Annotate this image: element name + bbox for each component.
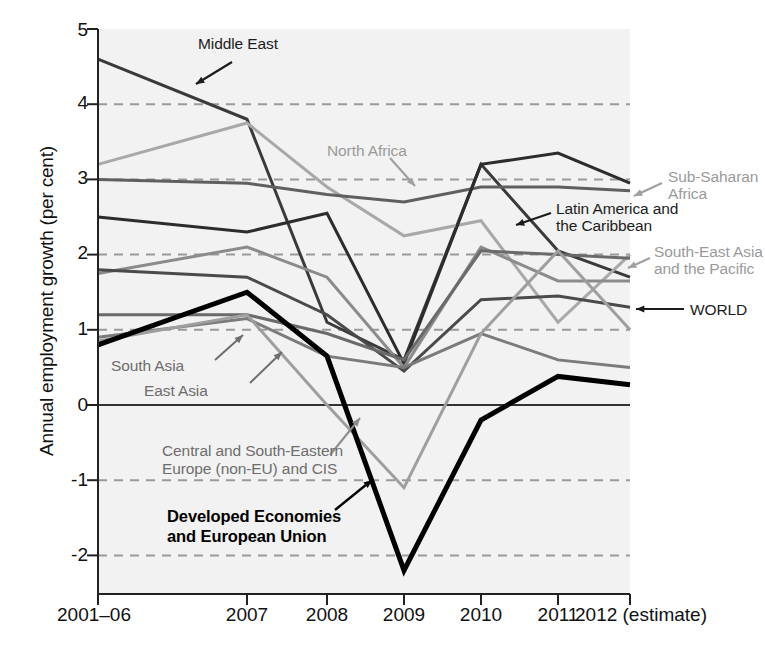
y-tick-4: 4 (48, 92, 88, 114)
y-tick-neg2: -2 (48, 544, 88, 566)
leader-arrowhead-5 (636, 305, 644, 312)
y-tick-5: 5 (48, 19, 88, 41)
y-tick-2: 2 (48, 242, 88, 264)
x-tick-2012: 2012 (estimate) (575, 604, 755, 626)
annotation-east-asia: East Asia (144, 382, 208, 399)
annotation-north-africa: North Africa (327, 142, 407, 159)
annotation-cseecis-line1: Central and South-Eastern (162, 442, 343, 459)
y-tick-3: 3 (48, 167, 88, 189)
annotation-sub-saharan-africa-line1: Sub-Saharan (668, 168, 758, 185)
y-tick-neg1: -1 (48, 469, 88, 491)
y-tick-1: 1 (48, 318, 88, 340)
annotation-developed-economies-line2: and European Union (167, 528, 327, 545)
annotation-cseecis-line2: Europe (non-EU) and CIS (162, 460, 337, 477)
chart-figure: Annual employment growth (per cent) 5 4 … (0, 0, 765, 664)
y-tick-0: 0 (48, 394, 88, 416)
annotation-south-asia: South Asia (111, 357, 184, 374)
x-tick-2007: 2007 (202, 604, 292, 626)
annotation-south-east-asia-line2: and the Pacific (654, 260, 754, 277)
annotation-world: WORLD (690, 301, 747, 318)
x-tick-2001-06: 2001–06 (39, 604, 149, 626)
annotation-middle-east: Middle East (198, 35, 278, 52)
annotation-south-east-asia-line1: South-East Asia (654, 243, 763, 260)
annotation-developed-economies-line1: Developed Economies (167, 508, 341, 525)
annotation-latin-america-line2: the Caribbean (556, 217, 652, 234)
annotation-latin-america-line1: Latin America and (556, 200, 678, 217)
line-chart-plot (0, 0, 765, 664)
